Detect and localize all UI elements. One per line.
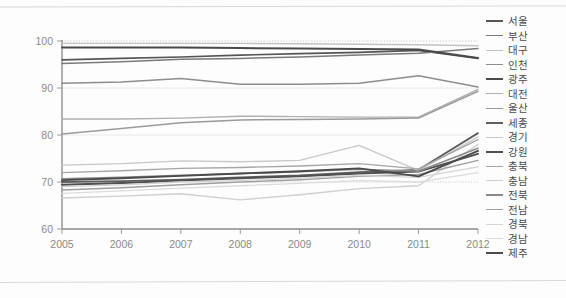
legend-color-swatch [486, 180, 503, 181]
legend-label: 울산 [508, 103, 528, 114]
legend-label: 대전 [508, 89, 528, 100]
series-line-5 [62, 89, 478, 119]
legend-label: 대구 [508, 45, 528, 56]
legend-color-swatch [486, 238, 503, 239]
series-line-10 [62, 140, 478, 173]
y-axis-tick-labels: 60708090100 [35, 35, 53, 235]
legend-color-swatch [486, 35, 503, 36]
legend-item[interactable]: 제주 [486, 246, 560, 261]
legend-color-swatch [486, 50, 503, 51]
gridlines [62, 41, 478, 229]
legend-item[interactable]: 경남 [486, 232, 560, 247]
legend-item[interactable]: 경북 [486, 217, 560, 232]
scan-border-bottom [0, 280, 566, 283]
legend-item[interactable]: 강원 [486, 145, 560, 160]
y-tick-label: 70 [41, 176, 53, 188]
series-line-2 [62, 43, 478, 45]
x-tick-label: 2008 [229, 238, 253, 250]
legend-item[interactable]: 대구 [486, 43, 560, 58]
chart-svg: 60708090100 2005200620072008200920102011… [0, 10, 490, 278]
legend-color-swatch [486, 137, 503, 138]
chart-legend: 서울부산대구인천광주대전울산세종경기강원충북충남전북전남경북경남제주 [486, 14, 560, 261]
series-line-3 [62, 76, 478, 87]
legend-item[interactable]: 충북 [486, 159, 560, 174]
y-tick-label: 80 [41, 129, 53, 141]
series-line-6 [62, 91, 478, 134]
x-tick-label: 2009 [288, 238, 312, 250]
legend-label: 충남 [508, 176, 528, 187]
y-tick-label: 60 [41, 223, 53, 235]
legend-label: 인천 [508, 60, 528, 71]
legend-color-swatch [486, 209, 503, 210]
x-tick-label: 2006 [110, 238, 134, 250]
legend-label: 세종 [508, 118, 528, 129]
legend-label: 강원 [508, 147, 528, 158]
legend-item[interactable]: 대전 [486, 87, 560, 102]
legend-item[interactable]: 서울 [486, 14, 560, 29]
legend-item[interactable]: 울산 [486, 101, 560, 116]
legend-item[interactable]: 인천 [486, 58, 560, 73]
plot-area: 60708090100 2005200620072008200920102011… [0, 10, 490, 278]
legend-label: 제주 [508, 248, 528, 259]
series-lines [62, 43, 478, 200]
y-tick-label: 100 [35, 35, 53, 47]
legend-label: 경기 [508, 132, 528, 143]
x-tick-label: 2007 [169, 238, 193, 250]
legend-color-swatch [486, 78, 503, 80]
legend-color-swatch [486, 224, 503, 225]
legend-color-swatch [486, 166, 503, 167]
legend-item[interactable]: 충남 [486, 174, 560, 189]
legend-item[interactable]: 전북 [486, 188, 560, 203]
x-axis-tick-labels: 20052006200720082009201020112012 [50, 238, 490, 250]
legend-label: 광주 [508, 74, 528, 85]
x-tick-label: 2005 [50, 238, 74, 250]
chart-page: 60708090100 2005200620072008200920102011… [0, 0, 566, 298]
legend-item[interactable]: 부산 [486, 29, 560, 44]
legend-item[interactable]: 전남 [486, 203, 560, 218]
legend-color-swatch [486, 252, 503, 254]
legend-item[interactable]: 세종 [486, 116, 560, 131]
scan-border-top [0, 5, 566, 7]
legend-color-swatch [486, 122, 503, 124]
legend-label: 전북 [508, 190, 528, 201]
axes [57, 40, 478, 234]
legend-color-swatch [486, 93, 503, 94]
line-chart: 60708090100 2005200620072008200920102011… [0, 10, 490, 278]
legend-label: 경북 [508, 219, 528, 230]
legend-color-swatch [486, 108, 503, 109]
legend-label: 서울 [508, 16, 528, 27]
legend-color-swatch [486, 194, 503, 196]
legend-color-swatch [486, 64, 503, 65]
legend-color-swatch [486, 151, 503, 153]
y-tick-label: 90 [41, 82, 53, 94]
legend-item[interactable]: 광주 [486, 72, 560, 87]
legend-item[interactable]: 경기 [486, 130, 560, 145]
x-tick-label: 2010 [347, 238, 371, 250]
x-tick-label: 2011 [407, 238, 430, 250]
legend-label: 부산 [508, 31, 528, 42]
legend-label: 경남 [508, 234, 528, 245]
legend-label: 충북 [508, 161, 528, 172]
legend-color-swatch [486, 20, 503, 22]
legend-label: 전남 [508, 205, 528, 216]
series-line-8 [62, 137, 478, 171]
